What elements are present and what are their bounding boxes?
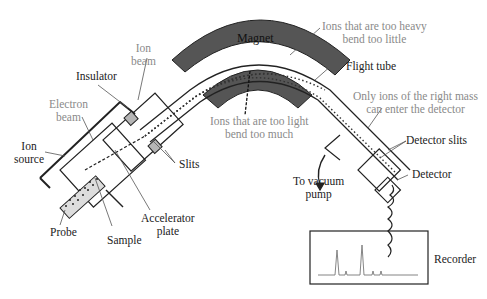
recorder-label: Recorder (434, 253, 476, 266)
slits-label: Slits (179, 158, 199, 171)
recorder-trace (318, 245, 418, 275)
detector-label: Detector (412, 168, 452, 181)
detector-wire (388, 185, 394, 257)
probe-label: Probe (50, 226, 77, 239)
only-ions-right-mass-label: Only ions of the right mass can enter th… (353, 90, 478, 116)
detector-slits-label: Detector slits (406, 134, 467, 147)
ion-source-label: Ion source (14, 140, 44, 166)
magnet-label: Magnet (237, 31, 274, 46)
insulator-label: Insulator (76, 70, 117, 83)
slit-1 (124, 111, 138, 125)
probe (60, 176, 105, 219)
recorder-box (310, 231, 428, 284)
flight-tube-label: Flight tube (346, 60, 396, 73)
ion-beam-label: Ion beam (131, 42, 156, 68)
vacuum-pump-label: To vacuum pump (293, 175, 344, 201)
accelerator-plate-label: Accelerator plate (141, 212, 195, 238)
electron-beam-label: Electron beam (49, 98, 88, 124)
ions-too-light-label: Ions that are too light bend too much (210, 115, 308, 141)
sample-label: Sample (107, 234, 142, 247)
ions-too-heavy-label: Ions that are too heavy bend too little (322, 20, 427, 46)
